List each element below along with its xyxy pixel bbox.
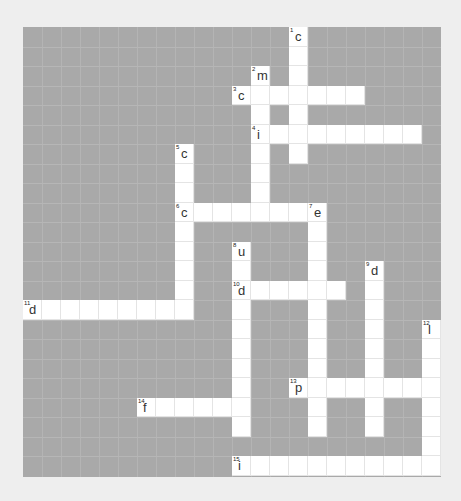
crossword-cell[interactable] — [137, 300, 156, 320]
crossword-cell[interactable] — [194, 398, 213, 418]
crossword-cell[interactable]: 14f — [137, 398, 156, 418]
crossword-cell[interactable] — [251, 456, 270, 476]
crossword-cell[interactable] — [289, 456, 308, 476]
crossword-cell[interactable]: 1c — [289, 27, 308, 47]
crossword-cell[interactable] — [232, 378, 251, 398]
crossword-cell[interactable] — [270, 203, 289, 223]
crossword-cell[interactable] — [251, 281, 270, 301]
crossword-cell[interactable] — [156, 398, 175, 418]
crossword-cell[interactable] — [232, 261, 251, 281]
crossword-cell[interactable]: 11d — [23, 300, 42, 320]
crossword-cell[interactable] — [365, 359, 384, 379]
crossword-cell[interactable] — [384, 378, 403, 398]
crossword-cell[interactable] — [308, 300, 327, 320]
crossword-cell[interactable]: 13p — [289, 378, 308, 398]
crossword-cell[interactable] — [175, 183, 194, 203]
crossword-cell[interactable] — [251, 86, 270, 106]
crossword-cell[interactable] — [61, 300, 80, 320]
crossword-cell[interactable] — [403, 378, 422, 398]
crossword-cell[interactable] — [422, 456, 441, 476]
crossword-cell[interactable] — [213, 398, 232, 418]
crossword-cell[interactable] — [42, 300, 61, 320]
crossword-cell[interactable] — [308, 417, 327, 437]
crossword-cell[interactable] — [289, 144, 308, 164]
crossword-cell[interactable] — [270, 456, 289, 476]
crossword-cell[interactable] — [346, 456, 365, 476]
crossword-cell[interactable] — [422, 417, 441, 437]
crossword-cell[interactable] — [422, 398, 441, 418]
crossword-cell[interactable] — [175, 222, 194, 242]
crossword-cell[interactable] — [175, 398, 194, 418]
crossword-cell[interactable] — [365, 398, 384, 418]
crossword-cell[interactable] — [422, 437, 441, 457]
crossword-cell[interactable] — [384, 125, 403, 145]
crossword-cell[interactable] — [308, 242, 327, 262]
crossword-cell[interactable] — [156, 300, 175, 320]
crossword-cell[interactable] — [365, 281, 384, 301]
crossword-cell[interactable] — [308, 222, 327, 242]
crossword-cell[interactable] — [251, 105, 270, 125]
crossword-cell[interactable] — [308, 339, 327, 359]
crossword-cell[interactable]: 12l — [422, 320, 441, 340]
crossword-cell[interactable]: 15i — [232, 456, 251, 476]
crossword-cell[interactable]: 9d — [365, 261, 384, 281]
crossword-cell[interactable] — [289, 125, 308, 145]
crossword-cell[interactable] — [308, 378, 327, 398]
crossword-cell[interactable] — [213, 203, 232, 223]
crossword-cell[interactable] — [422, 339, 441, 359]
crossword-cell[interactable] — [251, 183, 270, 203]
crossword-cell[interactable] — [308, 86, 327, 106]
crossword-cell[interactable] — [232, 320, 251, 340]
crossword-cell[interactable] — [422, 359, 441, 379]
crossword-cell[interactable] — [327, 281, 346, 301]
crossword-cell[interactable] — [308, 281, 327, 301]
crossword-cell[interactable] — [80, 300, 99, 320]
crossword-cell[interactable] — [232, 417, 251, 437]
crossword-cell[interactable] — [308, 456, 327, 476]
crossword-cell[interactable] — [289, 105, 308, 125]
crossword-cell[interactable] — [308, 398, 327, 418]
crossword-cell[interactable] — [289, 281, 308, 301]
crossword-cell[interactable] — [175, 242, 194, 262]
crossword-cell[interactable] — [327, 86, 346, 106]
crossword-cell[interactable] — [232, 359, 251, 379]
crossword-cell[interactable] — [403, 125, 422, 145]
crossword-cell[interactable] — [99, 300, 118, 320]
crossword-cell[interactable] — [308, 320, 327, 340]
crossword-cell[interactable] — [346, 378, 365, 398]
crossword-cell[interactable]: 8u — [232, 242, 251, 262]
crossword-cell[interactable] — [289, 47, 308, 67]
crossword-cell[interactable] — [289, 203, 308, 223]
crossword-cell[interactable] — [384, 456, 403, 476]
crossword-cell[interactable] — [270, 281, 289, 301]
crossword-cell[interactable] — [365, 378, 384, 398]
crossword-cell[interactable] — [365, 456, 384, 476]
crossword-cell[interactable]: 2m — [251, 66, 270, 86]
crossword-cell[interactable] — [232, 300, 251, 320]
crossword-cell[interactable]: 10d — [232, 281, 251, 301]
crossword-cell[interactable] — [175, 281, 194, 301]
crossword-cell[interactable] — [175, 261, 194, 281]
crossword-cell[interactable] — [346, 125, 365, 145]
crossword-cell[interactable] — [270, 86, 289, 106]
crossword-cell[interactable] — [365, 417, 384, 437]
crossword-cell[interactable]: 5c — [175, 144, 194, 164]
crossword-cell[interactable] — [232, 339, 251, 359]
crossword-cell[interactable] — [251, 203, 270, 223]
crossword-cell[interactable] — [270, 125, 289, 145]
crossword-cell[interactable] — [251, 164, 270, 184]
crossword-cell[interactable] — [232, 203, 251, 223]
crossword-cell[interactable] — [422, 378, 441, 398]
crossword-cell[interactable] — [194, 203, 213, 223]
crossword-cell[interactable] — [365, 125, 384, 145]
crossword-cell[interactable] — [365, 320, 384, 340]
crossword-cell[interactable] — [232, 398, 251, 418]
crossword-cell[interactable] — [327, 125, 346, 145]
crossword-cell[interactable]: 4i — [251, 125, 270, 145]
crossword-cell[interactable] — [118, 300, 137, 320]
crossword-cell[interactable] — [346, 86, 365, 106]
crossword-cell[interactable]: 6c — [175, 203, 194, 223]
crossword-cell[interactable] — [175, 300, 194, 320]
crossword-cell[interactable] — [308, 261, 327, 281]
crossword-cell[interactable] — [365, 339, 384, 359]
